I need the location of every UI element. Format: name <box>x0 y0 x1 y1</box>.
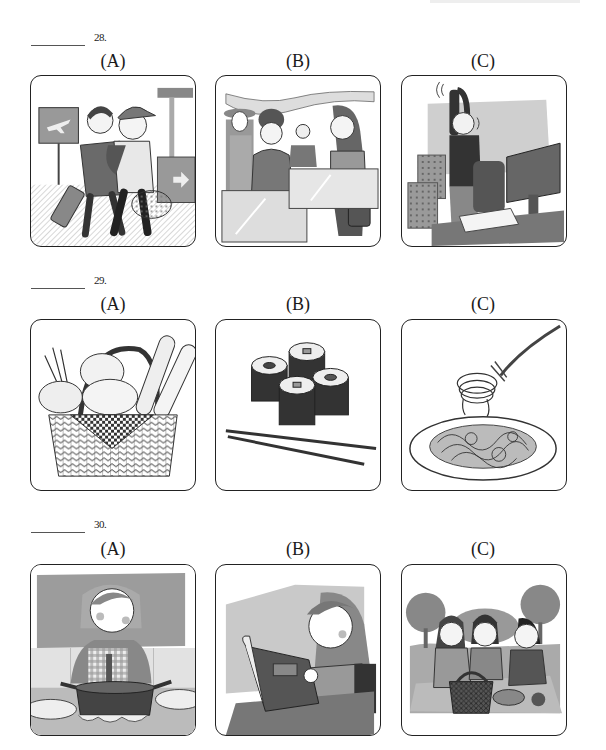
option-label-b: (B) <box>268 539 328 560</box>
answer-blank[interactable] <box>31 45 85 46</box>
question-number: 28. <box>94 31 106 43</box>
shopping-department-store-icon <box>216 76 380 246</box>
option-label-a: (A) <box>83 51 143 72</box>
option-label-c: (C) <box>453 539 513 560</box>
sushi-chopsticks-icon <box>216 320 380 490</box>
option-c-picture[interactable] <box>401 319 567 491</box>
travelers-walking-airport-icon <box>31 76 195 246</box>
option-label-a: (A) <box>83 294 143 315</box>
girl-cooking-icon <box>31 565 195 735</box>
option-c-picture[interactable] <box>401 75 567 247</box>
option-label-a: (A) <box>83 539 143 560</box>
option-label-b: (B) <box>268 51 328 72</box>
question-number: 30. <box>94 518 106 530</box>
option-b-picture[interactable] <box>215 564 381 736</box>
question-number: 29. <box>94 274 106 286</box>
cropped-header-remnant <box>430 0 580 3</box>
bread-basket-icon <box>31 320 195 490</box>
spaghetti-fork-icon <box>402 320 566 490</box>
office-stretching-icon <box>402 76 566 246</box>
picnic-friends-icon <box>402 565 566 735</box>
option-a-picture[interactable] <box>30 319 196 491</box>
option-b-picture[interactable] <box>215 75 381 247</box>
option-label-b: (B) <box>268 294 328 315</box>
woman-reading-menu-icon <box>216 565 380 735</box>
answer-blank[interactable] <box>31 532 85 533</box>
option-label-c: (C) <box>453 51 513 72</box>
option-b-picture[interactable] <box>215 319 381 491</box>
option-c-picture[interactable] <box>401 564 567 736</box>
option-label-c: (C) <box>453 294 513 315</box>
option-a-picture[interactable] <box>30 75 196 247</box>
option-a-picture[interactable] <box>30 564 196 736</box>
answer-blank[interactable] <box>31 288 85 289</box>
